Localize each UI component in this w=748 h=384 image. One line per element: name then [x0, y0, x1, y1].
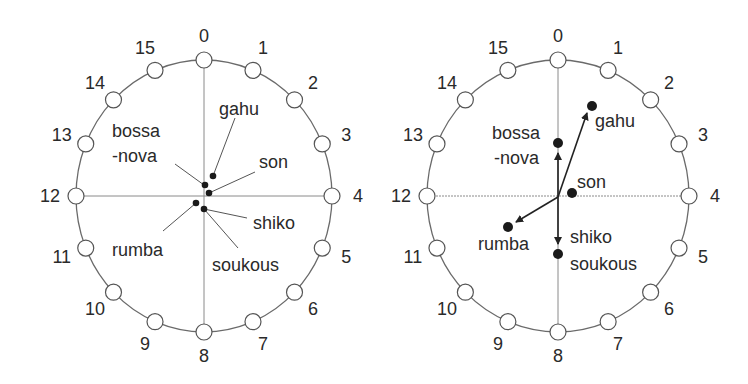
- position-label-1: 1: [613, 38, 623, 58]
- dot-shiko-soukous: [201, 206, 208, 213]
- rhythm-circle-diagrams: 0123456789101112131415 gahu bossa -nova …: [0, 0, 748, 384]
- leader-gahu: [213, 118, 235, 176]
- position-label-14: 14: [85, 73, 105, 93]
- arrow-to-rumba: [516, 197, 558, 222]
- position-label-0: 0: [553, 26, 563, 46]
- position-node-15: [500, 62, 516, 78]
- position-node-4: [681, 188, 697, 204]
- position-label-9: 9: [493, 334, 503, 354]
- position-label-2: 2: [308, 73, 318, 93]
- position-node-10: [105, 284, 121, 300]
- position-label-13: 13: [52, 125, 72, 145]
- position-node-11: [429, 240, 445, 256]
- position-label-7: 7: [613, 334, 623, 354]
- position-node-15: [147, 62, 163, 78]
- position-node-4: [324, 188, 340, 204]
- position-node-8: [196, 324, 212, 340]
- dot-shiko-soukous: [553, 249, 563, 259]
- position-label-6: 6: [664, 299, 674, 319]
- position-node-1: [245, 62, 261, 78]
- left-panel: 0123456789101112131415 gahu bossa -nova …: [40, 26, 363, 366]
- position-node-1: [600, 62, 616, 78]
- dot-rumba: [503, 222, 513, 232]
- position-label-1: 1: [258, 38, 268, 58]
- position-node-0: [550, 52, 566, 68]
- label-gahu: gahu: [219, 99, 259, 119]
- dot-gahu: [587, 101, 597, 111]
- label-bossa: bossa: [112, 121, 161, 141]
- position-node-7: [600, 314, 616, 330]
- label-shiko: shiko: [570, 227, 612, 247]
- position-label-15: 15: [488, 38, 508, 58]
- position-label-11: 11: [52, 247, 71, 267]
- position-node-14: [105, 92, 121, 108]
- dot-bossa-nova: [202, 182, 209, 189]
- position-label-3: 3: [698, 125, 708, 145]
- label-soukous: soukous: [212, 255, 279, 275]
- label-son: son: [259, 152, 288, 172]
- position-label-14: 14: [437, 73, 457, 93]
- position-node-9: [147, 314, 163, 330]
- position-label-15: 15: [135, 38, 155, 58]
- position-node-12: [68, 188, 84, 204]
- position-label-5: 5: [698, 247, 708, 267]
- label-rumba: rumba: [112, 240, 164, 260]
- label-soukous: soukous: [570, 254, 637, 274]
- label-bossa: bossa: [492, 123, 541, 143]
- position-label-11: 11: [404, 247, 423, 267]
- position-label-8: 8: [553, 346, 563, 366]
- position-label-3: 3: [341, 125, 351, 145]
- position-label-9: 9: [140, 334, 150, 354]
- position-node-13: [429, 136, 445, 152]
- position-node-5: [671, 240, 687, 256]
- position-node-8: [550, 324, 566, 340]
- label-shiko: shiko: [253, 213, 295, 233]
- position-label-7: 7: [258, 334, 268, 354]
- position-label-12: 12: [391, 186, 411, 206]
- label-nova: -nova: [494, 148, 540, 168]
- label-gahu: gahu: [595, 111, 635, 131]
- position-label-4: 4: [353, 186, 363, 206]
- dot-son: [567, 188, 577, 198]
- position-label-13: 13: [403, 125, 423, 145]
- position-node-7: [245, 314, 261, 330]
- position-node-11: [78, 240, 94, 256]
- position-node-6: [643, 284, 659, 300]
- position-node-2: [643, 92, 659, 108]
- position-label-10: 10: [437, 299, 457, 319]
- position-label-5: 5: [341, 247, 351, 267]
- position-label-8: 8: [199, 346, 209, 366]
- label-son: son: [577, 172, 606, 192]
- dot-rumba: [193, 200, 200, 207]
- dot-gahu: [210, 173, 217, 180]
- position-node-3: [314, 136, 330, 152]
- right-panel: 0123456789101112131415 gahu bossa -nova …: [391, 26, 720, 366]
- position-node-14: [457, 92, 473, 108]
- leader-rumba: [163, 203, 196, 231]
- position-label-12: 12: [40, 186, 60, 206]
- position-node-13: [78, 136, 94, 152]
- dot-son: [206, 190, 213, 197]
- dot-bossa-nova: [553, 138, 563, 148]
- position-label-4: 4: [710, 186, 720, 206]
- position-node-2: [287, 92, 303, 108]
- position-node-3: [671, 136, 687, 152]
- position-node-12: [419, 188, 435, 204]
- position-node-6: [287, 284, 303, 300]
- leader-bossa-nova: [175, 164, 204, 185]
- label-nova: -nova: [112, 146, 158, 166]
- position-label-0: 0: [199, 26, 209, 46]
- position-node-5: [314, 240, 330, 256]
- position-label-10: 10: [85, 299, 105, 319]
- position-node-0: [196, 52, 212, 68]
- position-node-9: [500, 314, 516, 330]
- position-node-10: [457, 284, 473, 300]
- label-rumba: rumba: [478, 234, 530, 254]
- position-label-2: 2: [664, 73, 674, 93]
- position-label-6: 6: [308, 299, 318, 319]
